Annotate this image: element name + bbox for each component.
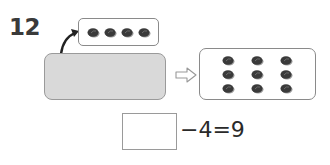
bean-icon	[280, 83, 293, 94]
hidden-items-box	[44, 53, 166, 100]
bean-icon	[87, 27, 100, 38]
bean-icon	[280, 55, 293, 66]
removed-items-box	[78, 18, 159, 46]
bean-icon	[222, 69, 235, 80]
bean-icon	[251, 55, 264, 66]
remaining-items-box	[199, 48, 316, 100]
bean-icon	[251, 69, 264, 80]
bean-icon	[121, 27, 134, 38]
bean-icon	[222, 83, 235, 94]
answer-input-box[interactable]	[122, 113, 177, 150]
bean-icon	[280, 69, 293, 80]
bean-icon	[104, 27, 117, 38]
bean-icon	[222, 55, 235, 66]
equation-text: −4=9	[180, 117, 245, 142]
problem-number: 12	[9, 14, 40, 40]
hollow-right-arrow-icon	[175, 67, 197, 83]
bean-icon	[138, 27, 151, 38]
bean-icon	[251, 83, 264, 94]
